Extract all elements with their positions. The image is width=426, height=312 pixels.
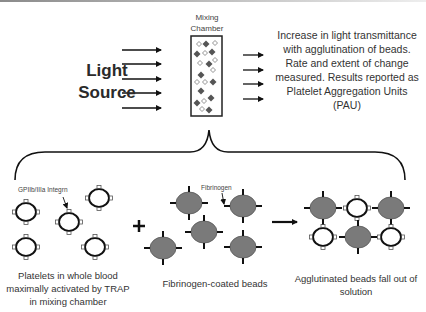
expansion-bracket — [15, 130, 405, 180]
chamber-label-line1: Mixing — [184, 12, 230, 23]
integrin-pointer — [63, 197, 67, 208]
integrin-label: GPIIb/IIIa Integrn — [18, 186, 108, 193]
chamber-label-line2: Chamber — [184, 23, 230, 34]
result-description: Increase in light transmittance with agg… — [272, 28, 422, 112]
fibrinogen-pointer — [222, 193, 224, 204]
platelets-group — [13, 186, 113, 260]
agglutinated-cluster — [304, 191, 410, 254]
light-source-line1: Light — [62, 60, 152, 82]
mixing-chamber — [191, 36, 222, 116]
light-source-line2: Source — [62, 82, 152, 104]
mixing-chamber-label: Mixing Chamber — [184, 12, 230, 34]
fibrinogen-label: Fibrinogen — [201, 184, 251, 191]
beads-group — [144, 186, 262, 265]
light-source-label: Light Source — [62, 60, 152, 104]
platelets-caption: Platelets in whole blood maximally activ… — [4, 269, 132, 308]
agglutination-caption: Agglutinated beads fall out of solution — [286, 272, 426, 298]
beads-caption: Fibrinogen-coated beads — [150, 277, 280, 290]
plus-operator — [133, 220, 145, 232]
outgoing-light-arrows — [243, 55, 263, 99]
